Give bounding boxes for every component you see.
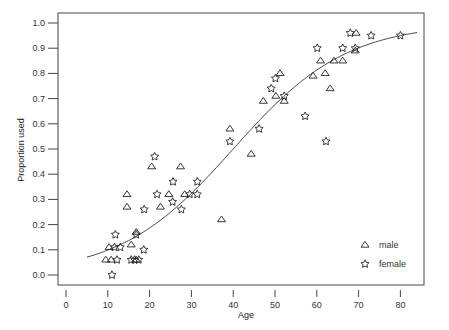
male-point-triangle-icon — [226, 125, 234, 131]
legend: malefemale — [361, 240, 406, 269]
legend-star-icon — [361, 260, 369, 268]
x-tick-label: 10 — [103, 300, 113, 310]
female-point-star-icon — [177, 205, 185, 213]
x-tick-label: 20 — [145, 300, 155, 310]
male-point-triangle-icon — [317, 57, 325, 63]
male-point-triangle-icon — [339, 57, 347, 63]
female-point-star-icon — [140, 246, 148, 254]
female-point-star-icon — [169, 198, 177, 206]
female-point-star-icon — [169, 178, 177, 186]
female-point-star-icon — [255, 125, 263, 133]
male-point-triangle-icon — [148, 163, 156, 169]
male-point-triangle-icon — [217, 216, 225, 222]
male-point-triangle-icon — [127, 241, 135, 247]
x-tick-label: 40 — [228, 300, 238, 310]
y-tick-label: 0.7 — [32, 94, 45, 104]
x-tick-label: 60 — [312, 300, 322, 310]
legend-label-female: female — [379, 259, 406, 269]
x-tick-label: 50 — [270, 300, 280, 310]
y-tick-label: 0.0 — [32, 270, 45, 280]
male-point-triangle-icon — [326, 85, 334, 91]
y-tick-label: 0.3 — [32, 194, 45, 204]
male-point-triangle-icon — [123, 203, 131, 209]
female-point-star-icon — [140, 205, 148, 213]
x-tick-label: 70 — [354, 300, 364, 310]
male-point-triangle-icon — [259, 98, 267, 104]
x-axis: 01020304050607080 — [63, 290, 405, 310]
female-point-star-icon — [339, 44, 347, 52]
female-point-star-icon — [367, 31, 375, 39]
y-tick-label: 1.0 — [32, 18, 45, 28]
y-tick-label: 0.1 — [32, 245, 45, 255]
y-axis: 0.00.10.20.30.40.50.60.70.80.91.0 — [32, 18, 58, 280]
fitted-logistic-curve — [87, 33, 417, 258]
legend-label-male: male — [379, 240, 399, 250]
female-point-star-icon — [153, 190, 161, 198]
male-point-triangle-icon — [272, 92, 280, 98]
y-tick-label: 0.4 — [32, 169, 45, 179]
male-point-triangle-icon — [156, 203, 164, 209]
y-axis-title: Proportion used — [16, 118, 26, 182]
female-point-star-icon — [111, 230, 119, 238]
female-point-star-icon — [313, 44, 321, 52]
female-point-star-icon — [267, 84, 275, 92]
male-point-triangle-icon — [165, 191, 173, 197]
male-point-triangle-icon — [102, 256, 110, 262]
female-point-star-icon — [151, 152, 159, 160]
male-point-triangle-icon — [247, 150, 255, 156]
male-point-triangle-icon — [177, 163, 185, 169]
x-axis-title: Age — [238, 310, 254, 320]
female-point-star-icon — [108, 271, 116, 279]
y-tick-label: 0.6 — [32, 119, 45, 129]
legend-triangle-icon — [361, 241, 369, 247]
chart-canvas: 0.00.10.20.30.40.50.60.70.80.91.0 010203… — [0, 0, 449, 330]
plot-frame — [58, 13, 424, 285]
female-point-star-icon — [193, 178, 201, 186]
female-point-star-icon — [193, 190, 201, 198]
x-tick-label: 0 — [63, 300, 68, 310]
y-tick-label: 0.8 — [32, 68, 45, 78]
male-point-triangle-icon — [309, 72, 317, 78]
x-tick-label: 80 — [395, 300, 405, 310]
female-point-star-icon — [301, 112, 309, 120]
data-points — [102, 29, 405, 279]
y-tick-label: 0.5 — [32, 144, 45, 154]
y-tick-label: 0.2 — [32, 220, 45, 230]
y-tick-label: 0.9 — [32, 43, 45, 53]
male-point-triangle-icon — [321, 70, 329, 76]
male-point-triangle-icon — [276, 70, 284, 76]
male-point-triangle-icon — [123, 191, 131, 197]
female-point-star-icon — [226, 137, 234, 145]
female-point-star-icon — [322, 137, 330, 145]
x-tick-label: 30 — [186, 300, 196, 310]
